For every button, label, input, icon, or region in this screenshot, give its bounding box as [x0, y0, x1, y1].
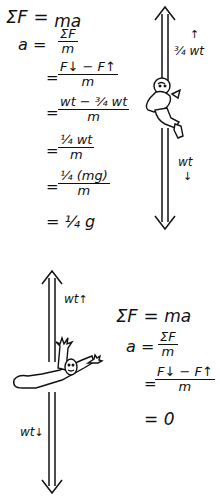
numerator: F↓ − F↑: [58, 60, 118, 75]
bottom-eq-result: = 0: [144, 409, 174, 429]
force-text: wt: [20, 425, 35, 439]
numerator: ¼ (mg): [58, 169, 110, 184]
denominator: m: [58, 75, 118, 89]
equals-sign: =: [46, 142, 59, 160]
denominator: m: [158, 345, 178, 359]
result-quarter-g: ¼ g: [65, 212, 96, 231]
denominator: m: [58, 184, 110, 198]
force-text: wt: [64, 292, 79, 306]
up-arrow-icon: ↑: [190, 28, 199, 41]
numerator: wt − ¾ wt: [58, 95, 129, 110]
top-fraction-line4: wt − ¾ wt m: [58, 95, 129, 124]
bottom-eq-line2: a =: [126, 337, 154, 356]
down-arrow-icon: ↓: [35, 426, 44, 439]
equals-sign: =: [33, 6, 48, 27]
acceleration-symbol: a: [126, 337, 136, 356]
denominator: m: [155, 380, 215, 394]
top-eq-result: = ¼ g: [46, 212, 95, 231]
bottom-upward-force-label: wt↑: [64, 292, 88, 306]
top-eq-line2: a =: [18, 35, 46, 54]
bottom-fraction-line3: F↓ − F↑ m: [155, 365, 215, 394]
numerator: ΣF: [58, 27, 78, 42]
top-fraction-line6: ¼ (mg) m: [58, 169, 110, 198]
denominator: m: [58, 42, 78, 56]
equals-sign: =: [46, 69, 59, 87]
hanging-person-figure: [14, 338, 102, 388]
equals-sign: =: [46, 178, 59, 196]
numerator: ¼ wt: [58, 133, 94, 148]
top-eq-newton-second-law: ΣF = ma: [6, 6, 81, 27]
bottom-fraction-line2: ΣF m: [158, 330, 178, 359]
top-downward-force-label: wt: [178, 155, 193, 169]
top-fraction-line2: ΣF m: [58, 27, 78, 56]
acceleration-symbol: a: [18, 35, 28, 54]
equals-sign: =: [46, 212, 59, 231]
top-upward-force-label: ¾ wt: [174, 44, 204, 58]
sum-force-symbol: ΣF: [6, 6, 28, 27]
numerator: ΣF: [158, 330, 178, 345]
denominator: m: [58, 110, 129, 124]
sum-force-symbol: ΣF: [116, 305, 138, 326]
climber-figure: [146, 78, 183, 138]
equals-sign: =: [33, 35, 46, 54]
equals-sign: =: [144, 409, 158, 429]
mass-times-acceleration: ma: [164, 306, 191, 326]
up-arrow-icon: ↑: [79, 293, 88, 306]
equals-sign: =: [141, 337, 154, 356]
numerator: F↓ − F↑: [155, 365, 215, 380]
bottom-downward-force-label: wt↓: [20, 425, 44, 439]
down-arrow-icon: ↓: [183, 170, 192, 183]
equals-sign: =: [46, 104, 59, 122]
bottom-eq-newton-second-law: ΣF = ma: [116, 305, 191, 326]
denominator: m: [58, 148, 94, 162]
top-fraction-line5: ¼ wt m: [58, 133, 94, 162]
top-fraction-line3: F↓ − F↑ m: [58, 60, 118, 89]
result-zero: 0: [164, 409, 175, 429]
equals-sign: =: [143, 305, 158, 326]
